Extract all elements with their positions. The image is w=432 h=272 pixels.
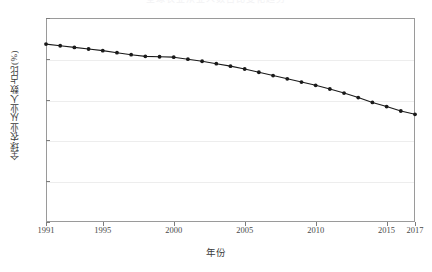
data-point (356, 96, 360, 100)
data-point (101, 49, 105, 53)
data-point (115, 51, 119, 55)
data-point (399, 109, 403, 113)
x-tick-mark (387, 222, 388, 226)
y-tick-mark (46, 59, 50, 60)
data-point (158, 55, 162, 59)
data-point (342, 91, 346, 95)
data-point (314, 83, 318, 87)
x-tick-label: 1995 (94, 226, 111, 235)
x-tick-mark (415, 222, 416, 226)
x-tick-mark (245, 222, 246, 226)
x-tick-label: 1991 (38, 226, 55, 235)
data-point (271, 74, 275, 78)
data-point (300, 80, 304, 84)
x-tick-mark (174, 222, 175, 226)
x-tick-mark (103, 222, 104, 226)
data-point (44, 42, 48, 46)
data-point (229, 64, 233, 68)
data-point (72, 45, 76, 49)
data-point (214, 62, 218, 66)
y-tick-mark (46, 100, 50, 101)
y-tick-mark (46, 181, 50, 182)
data-point (371, 101, 375, 105)
data-point (257, 70, 261, 74)
data-point (385, 105, 389, 109)
x-tick-label: 2017 (407, 226, 424, 235)
data-point (243, 67, 247, 71)
data-point (58, 44, 62, 48)
data-point (413, 112, 417, 116)
data-point (186, 57, 190, 61)
data-point (143, 54, 147, 58)
data-point (129, 53, 133, 57)
data-point (285, 77, 289, 81)
data-point (328, 87, 332, 91)
x-tick-label: 2010 (307, 226, 324, 235)
x-tick-mark (316, 222, 317, 226)
y-tick-mark (46, 18, 50, 19)
data-series-layer (0, 0, 432, 272)
data-point (87, 47, 91, 51)
data-point (200, 59, 204, 63)
data-point (172, 55, 176, 59)
x-tick-mark (46, 222, 47, 226)
series-markers (44, 42, 417, 116)
y-tick-mark (46, 140, 50, 141)
x-tick-label: 2015 (378, 226, 395, 235)
chart-figure: 全球农业从业人数占比变化趋势 50403020100 全球农业从业人数占比(%)… (0, 0, 432, 272)
series-line (46, 44, 415, 114)
x-tick-label: 2005 (236, 226, 253, 235)
x-tick-label: 2000 (165, 226, 182, 235)
